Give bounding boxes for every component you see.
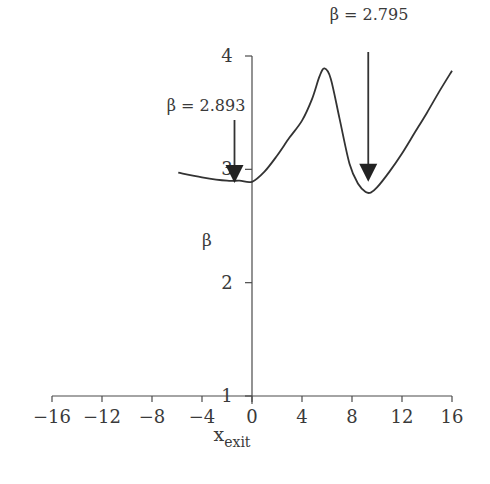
chart-canvas: −16−12−8−404812161234 β = 2.893β = 2.795…	[0, 0, 490, 484]
data-series	[178, 68, 452, 193]
x-tick-label: 8	[346, 406, 357, 427]
x-tick-label: 16	[441, 406, 464, 427]
y-axis-label: β	[202, 230, 212, 250]
y-tick-label: 2	[221, 272, 232, 293]
x-tick-label: 0	[246, 406, 257, 427]
annotation-label: β = 2.893	[167, 96, 246, 115]
x-tick-label: −12	[83, 406, 121, 427]
beta-curve	[178, 68, 452, 193]
annotations: β = 2.893β = 2.795	[167, 5, 409, 183]
annotation-arrow-head-icon	[359, 164, 377, 182]
x-tick-label: 4	[296, 406, 307, 427]
x-axis-label: xexit	[213, 423, 250, 450]
x-tick-label: −8	[139, 406, 166, 427]
x-axis-label-main: x	[213, 423, 224, 445]
y-tick-label: 1	[221, 385, 232, 406]
x-axis-label-subscript: exit	[224, 434, 251, 450]
x-tick-label: −16	[33, 406, 71, 427]
x-tick-label: 12	[391, 406, 414, 427]
annotation-label: β = 2.795	[330, 5, 409, 24]
y-tick-label: 4	[221, 45, 232, 66]
axes: −16−12−8−404812161234	[33, 45, 463, 427]
x-tick-label: −4	[189, 406, 216, 427]
